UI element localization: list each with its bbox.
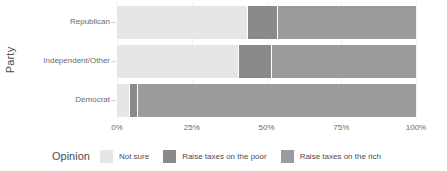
bar-segment-raise-taxes-on-the-poor[interactable] — [247, 6, 277, 39]
x-tick-label-75: 75% — [333, 123, 349, 132]
legend-label-not-sure: Not sure — [119, 152, 149, 161]
bar-segment-raise-taxes-on-the-poor[interactable] — [129, 84, 137, 117]
x-tick-label-25: 25% — [184, 123, 200, 132]
table-row[interactable] — [117, 6, 416, 39]
table-row[interactable] — [117, 84, 416, 117]
plot-area — [117, 0, 416, 120]
y-tick-label-independent-other: Independent/Other — [18, 56, 110, 66]
legend: Opinion Not sure Raise taxes on the poor… — [0, 141, 447, 171]
x-axis: 0% 25% 50% 75% 100% — [117, 120, 416, 140]
bar-segment-raise-taxes-on-the-rich[interactable] — [137, 84, 416, 117]
y-tick-label-republican: Republican — [18, 17, 110, 27]
y-axis-tick-labels: Republican Independent/Other Democrat — [18, 0, 110, 120]
legend-swatch-raise-taxes-on-the-poor — [163, 150, 176, 163]
y-tick-label-democrat: Democrat — [18, 95, 110, 105]
y-axis-title: Party — [0, 0, 20, 120]
y-tick-mark-independent-other — [111, 61, 116, 62]
legend-swatch-raise-taxes-on-the-rich — [281, 150, 294, 163]
bar-segment-raise-taxes-on-the-rich[interactable] — [271, 45, 416, 78]
legend-swatch-not-sure — [100, 150, 113, 163]
stacked-bar-chart: Party Republican Independent/Other Democ… — [0, 0, 447, 171]
bar-segment-not-sure[interactable] — [117, 6, 247, 39]
legend-title: Opinion — [52, 150, 90, 162]
legend-item-raise-taxes-on-the-rich[interactable]: Raise taxes on the rich — [281, 150, 381, 163]
bar-segment-raise-taxes-on-the-rich[interactable] — [277, 6, 416, 39]
bar-segment-not-sure[interactable] — [117, 45, 238, 78]
y-axis-title-label: Party — [4, 47, 16, 74]
gridline-100 — [416, 2, 417, 118]
bar-segment-raise-taxes-on-the-poor[interactable] — [238, 45, 271, 78]
legend-label-raise-taxes-on-the-poor: Raise taxes on the poor — [182, 152, 267, 161]
x-tick-label-100: 100% — [406, 123, 426, 132]
x-tick-label-0: 0% — [111, 123, 123, 132]
legend-item-raise-taxes-on-the-poor[interactable]: Raise taxes on the poor — [163, 150, 267, 163]
y-tick-mark-republican — [111, 22, 116, 23]
x-tick-label-50: 50% — [258, 123, 274, 132]
bar-segment-not-sure[interactable] — [117, 84, 129, 117]
legend-label-raise-taxes-on-the-rich: Raise taxes on the rich — [300, 152, 381, 161]
y-tick-mark-democrat — [111, 100, 116, 101]
table-row[interactable] — [117, 45, 416, 78]
legend-item-not-sure[interactable]: Not sure — [100, 150, 149, 163]
